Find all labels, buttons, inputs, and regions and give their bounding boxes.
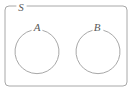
set-B-circle — [76, 30, 120, 73]
set-A: A — [15, 21, 59, 74]
set-A-circle — [15, 30, 59, 73]
universal-set-label-S: S — [18, 1, 24, 13]
universal-set-S: S — [5, 1, 127, 86]
set-B-label: B — [94, 21, 101, 33]
venn-diagram-canvas: S A B — [0, 0, 132, 93]
venn-diagram: S A B — [0, 0, 132, 93]
universal-set-border — [5, 6, 127, 86]
set-B: B — [76, 21, 120, 74]
set-A-label: A — [33, 21, 41, 33]
